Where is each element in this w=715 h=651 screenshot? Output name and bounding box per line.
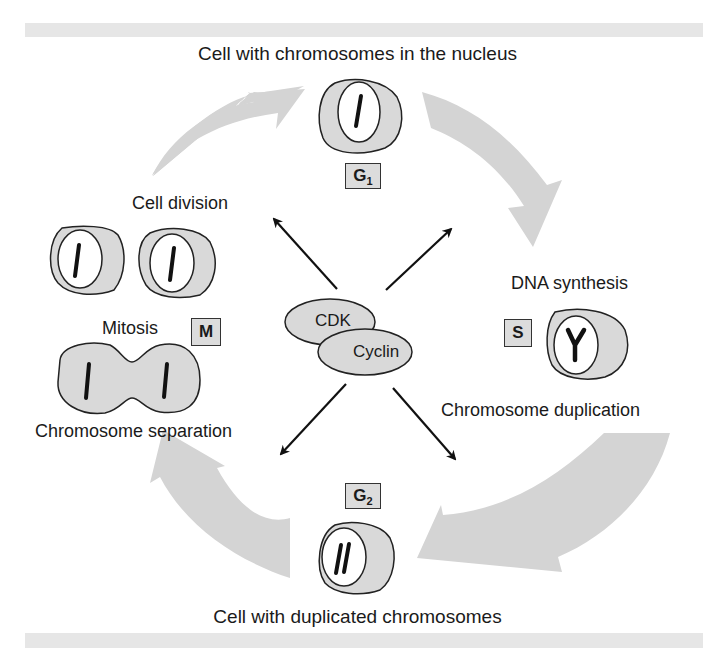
diagram-footer: Cell with duplicated chromosomes (0, 606, 715, 628)
daughter-cell-2 (139, 229, 215, 298)
phase-subscript: 1 (367, 175, 373, 187)
arrow-to-cell-division (274, 219, 337, 289)
cyclin-label: Cyclin (353, 342, 399, 362)
phase-box-s: S (504, 319, 532, 347)
g2-cell (319, 523, 394, 594)
s-phase-cell (547, 309, 628, 379)
phase-box-g2: G2 (345, 483, 381, 509)
daughter-cell-1 (51, 226, 124, 294)
chromosome-duplication-label: Chromosome duplication (441, 400, 640, 421)
phase-letter: G (353, 486, 366, 505)
dna-synthesis-label: DNA synthesis (511, 273, 628, 294)
phase-letter: S (512, 323, 523, 342)
phase-letter: M (199, 322, 213, 341)
chromosome-separation-label: Chromosome separation (35, 421, 232, 442)
arrow-to-dna-synthesis (386, 229, 451, 290)
phase-subscript: 2 (367, 495, 373, 507)
phase-box-m: M (191, 318, 221, 346)
arrow-to-chromosome-separation (281, 384, 346, 454)
arrow-to-g2 (393, 388, 455, 459)
g1-cell (319, 80, 401, 153)
cdk-label: CDK (315, 311, 351, 331)
phase-box-g1: G1 (345, 163, 381, 189)
mitosis-label: Mitosis (102, 318, 158, 339)
phase-letter: G (353, 166, 366, 185)
diagram-title: Cell with chromosomes in the nucleus (0, 43, 715, 65)
cell-division-label: Cell division (132, 193, 228, 214)
dividing-cell (58, 343, 200, 413)
